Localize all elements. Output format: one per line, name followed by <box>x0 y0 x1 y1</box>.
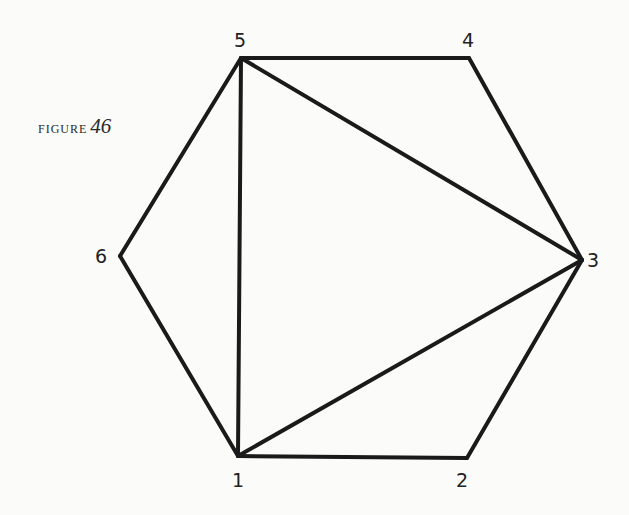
vertex-label-1: 1 <box>232 469 244 491</box>
edge-5-6 <box>120 58 241 256</box>
edge-2-3 <box>467 260 582 458</box>
edge-1-5 <box>238 58 241 456</box>
vertex-label-2: 2 <box>456 469 468 491</box>
vertex-label-6: 6 <box>95 245 107 267</box>
edge-1-3 <box>238 260 582 456</box>
edge-3-5 <box>241 58 582 260</box>
vertex-label-3: 3 <box>587 249 599 271</box>
vertex-label-5: 5 <box>234 29 246 51</box>
vertex-label-4: 4 <box>462 29 474 51</box>
diagram-edges <box>120 58 582 458</box>
hexagon-diagram: 123456 <box>0 0 629 515</box>
edge-1-2 <box>238 456 467 458</box>
edge-3-4 <box>469 58 582 260</box>
edge-6-1 <box>120 256 238 456</box>
vertex-labels: 123456 <box>95 29 599 491</box>
